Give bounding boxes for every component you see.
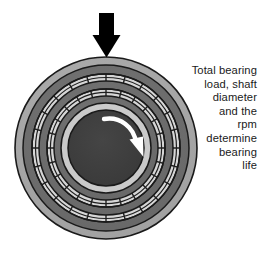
diagram-canvas: Total bearing load, shaft diameter and t…	[0, 0, 263, 259]
load-arrow	[93, 13, 121, 58]
shaft-hub	[68, 110, 144, 186]
caption-line-6: determine	[140, 132, 260, 146]
caption-line-7: bearing	[140, 146, 260, 160]
caption-line-5: rpm	[140, 118, 260, 132]
caption-line-1: Total bearing	[140, 64, 260, 78]
caption-block: Total bearing load, shaft diameter and t…	[140, 64, 260, 173]
caption-line-2: load, shaft	[140, 78, 260, 92]
caption-line-3: diameter	[140, 91, 260, 105]
caption-line-4: and the	[140, 105, 260, 119]
caption-line-8: life	[140, 159, 260, 173]
